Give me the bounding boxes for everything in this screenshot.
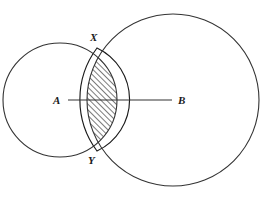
- geometry-figure: A B X Y: [0, 0, 273, 197]
- label-point-x: X: [90, 32, 97, 43]
- label-point-b: B: [178, 95, 185, 106]
- label-point-a: A: [53, 95, 60, 106]
- label-point-y: Y: [88, 155, 95, 166]
- geometry-canvas: [0, 0, 273, 197]
